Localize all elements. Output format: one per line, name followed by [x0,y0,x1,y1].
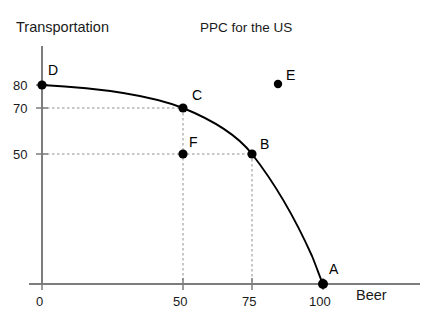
x-tick-label-0: 0 [36,295,43,308]
data-point-a[interactable] [318,279,328,289]
y-tick-label-50: 50 [13,148,27,161]
x-tick-label-50: 50 [173,295,187,308]
y-axis-title: Transportation [16,20,109,35]
point-label-d: D [48,63,58,77]
point-label-b: B [260,137,269,151]
ppc-chart-canvas [0,0,438,323]
y-tick-label-70: 70 [13,102,27,115]
point-label-a: A [329,262,338,276]
guide-lines [42,108,252,284]
point-label-c: C [192,88,202,102]
x-tick-label-100: 100 [309,295,331,308]
chart-title: PPC for the US [200,21,292,35]
data-point-e[interactable] [274,80,282,88]
data-point-d[interactable] [37,80,46,89]
axes [29,46,420,284]
point-label-e: E [286,68,295,82]
x-axis-title: Beer [356,288,387,303]
data-point-b[interactable] [247,149,256,158]
x-tick-label-75: 75 [242,295,256,308]
point-label-f: F [189,135,198,149]
data-point-f[interactable] [178,149,187,158]
y-tick-label-80: 80 [13,79,27,92]
data-point-c[interactable] [178,103,187,112]
chart-figure: Transportation PPC for the US Beer 80 70… [0,0,438,323]
